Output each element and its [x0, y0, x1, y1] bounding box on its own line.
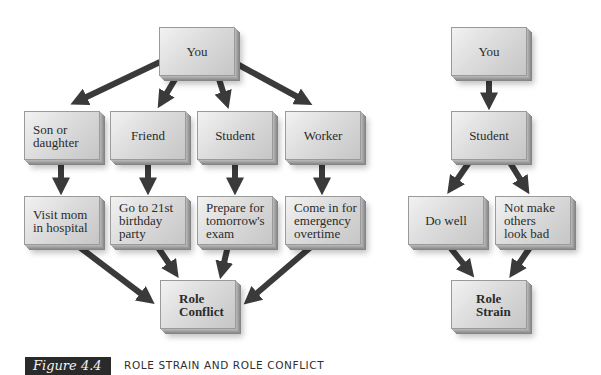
node-label: Do well: [425, 214, 467, 227]
arrow-exam-to-conflict: [222, 246, 228, 271]
node-role-friend: Friend: [110, 111, 186, 160]
node-label: Prepare for tomorrow's exam: [206, 201, 265, 240]
figure-caption: ROLE STRAIN AND ROLE CONFLICT: [124, 359, 324, 371]
node-label: Visit mom in hospital: [33, 208, 88, 234]
node-role-son-or-daughter: Son or daughter: [24, 111, 100, 160]
arrow-you-to-son: [78, 62, 160, 101]
arrow-overtime-to-conflict: [250, 246, 312, 299]
node-label: Not make others look bad: [504, 201, 555, 240]
node-label: Student: [215, 129, 255, 142]
node-role-worker: Worker: [285, 111, 361, 160]
figure-number-label: Figure 4.4: [25, 357, 111, 375]
arrow-you-to-student: [218, 76, 226, 101]
node-label: Worker: [304, 129, 343, 142]
node-role-student: Student: [197, 111, 273, 160]
arrow-you-to-friend: [162, 76, 177, 101]
arrow-party-to-conflict: [157, 246, 174, 271]
node-you-strain: You: [451, 27, 527, 76]
node-demand-visit-mom: Visit mom in hospital: [24, 196, 100, 245]
arrow-dowell-to-strain: [449, 246, 469, 271]
node-label: Role Conflict: [179, 292, 224, 318]
node-demand-prepare-exam: Prepare for tomorrow's exam: [197, 196, 273, 245]
node-role-student-strain: Student: [451, 111, 527, 160]
node-label: Role Strain: [476, 292, 511, 318]
arrow-student-to-notmake: [509, 161, 525, 187]
node-demand-birthday-party: Go to 21st birthday party: [110, 196, 186, 245]
node-you-conflict: You: [159, 27, 235, 76]
node-role-strain: Role Strain: [451, 280, 527, 329]
node-label: Student: [469, 129, 509, 142]
node-label: You: [186, 45, 207, 58]
node-label: You: [478, 45, 499, 58]
node-label: Friend: [131, 129, 165, 142]
node-role-conflict: Role Conflict: [160, 280, 236, 329]
arrow-you-to-worker: [237, 64, 305, 101]
arrow-student-to-dowell: [452, 161, 470, 187]
node-demand-do-well: Do well: [408, 196, 484, 245]
node-demand-not-make-others-look-bad: Not make others look bad: [495, 196, 571, 245]
arrow-notmake-to-strain: [514, 246, 531, 271]
node-label: Come in for emergency overtime: [294, 201, 357, 240]
node-label: Go to 21st birthday party: [119, 201, 173, 240]
node-demand-overtime: Come in for emergency overtime: [285, 196, 361, 245]
arrow-visit-to-conflict: [78, 246, 148, 299]
node-label: Son or daughter: [33, 123, 78, 149]
